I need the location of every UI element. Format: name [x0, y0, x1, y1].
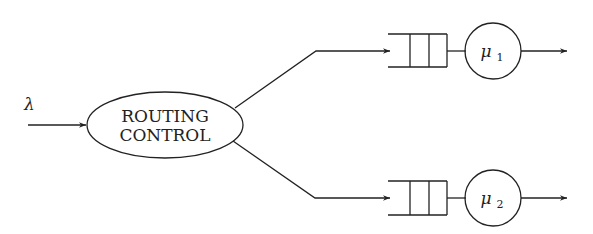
routing-diagram: λ ROUTING CONTROL μ 1 μ — [0, 0, 593, 234]
server-1: μ 1 — [465, 23, 521, 79]
lower-branch-arrow — [233, 141, 390, 198]
router-label-line1: ROUTING — [121, 106, 209, 126]
server-2: μ 2 — [465, 170, 521, 226]
arrival-rate-label: λ — [23, 94, 35, 114]
queue-2 — [388, 181, 466, 215]
router-label-line2: CONTROL — [119, 125, 210, 145]
queue-1 — [388, 34, 466, 67]
routing-control-node: ROUTING CONTROL — [87, 92, 243, 158]
upper-branch-arrow — [235, 51, 390, 108]
server-2-rate-label: μ — [480, 188, 491, 208]
server-1-rate-label: μ — [480, 41, 491, 61]
server-2-rate-subscript: 2 — [497, 198, 504, 211]
server-1-rate-subscript: 1 — [497, 51, 504, 64]
